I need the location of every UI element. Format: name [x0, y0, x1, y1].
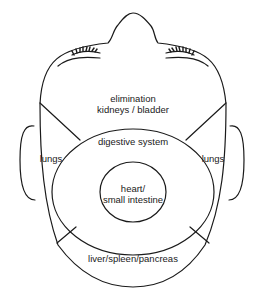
left-cheek-label: lungs [36, 153, 66, 164]
right-ear [229, 126, 244, 200]
digestive-zone-label: digestive system [83, 136, 183, 147]
chin-zone-label: liver/spleen/pancreas [73, 253, 193, 264]
forehead-label-line1: elimination [83, 93, 183, 104]
heart-label-line1: heart/ [93, 183, 173, 194]
forehead-zone-label: elimination kidneys / bladder [83, 93, 183, 115]
heart-zone-label: heart/ small intestine [93, 183, 173, 205]
divider-upper-left [40, 103, 80, 140]
left-ear [20, 126, 35, 200]
head-outline [40, 13, 226, 287]
divider-upper-right [186, 103, 226, 140]
right-eye [166, 57, 208, 66]
forehead-label-line2: kidneys / bladder [83, 104, 183, 115]
right-cheek-label: lungs [198, 153, 228, 164]
heart-label-line2: small intestine [93, 194, 173, 205]
left-eye [58, 57, 100, 66]
face-diagram [0, 0, 256, 295]
